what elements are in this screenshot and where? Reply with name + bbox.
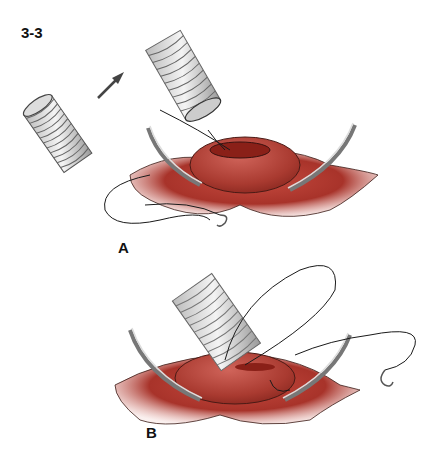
panel-a xyxy=(20,30,378,226)
positioned-graft xyxy=(146,30,224,125)
illustration xyxy=(0,0,442,462)
arrow-icon xyxy=(98,72,124,98)
panel-b xyxy=(115,266,415,425)
loose-graft xyxy=(20,91,91,173)
